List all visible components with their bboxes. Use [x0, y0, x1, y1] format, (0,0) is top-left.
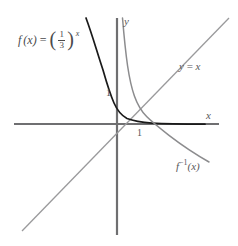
function-label-name: f [18, 34, 21, 46]
identity-line-label: y = x [179, 61, 201, 72]
x-axis-tick-label-1: 1 [137, 128, 142, 138]
exponent: x [76, 30, 80, 38]
fraction-denominator: 3 [58, 41, 65, 50]
x-axis-label: x [206, 110, 211, 121]
inverse-curve [123, 18, 210, 162]
base-fraction: 1 3 [58, 30, 65, 51]
y-axis-tick-label-1: 1 [106, 88, 111, 98]
inverse-label-arg: (x) [188, 161, 200, 172]
math-figure: f(x) = ( 1 3 ) x y x y = x f−1(x) 1 1 [0, 0, 238, 246]
identity-rhs: x [196, 60, 201, 72]
inverse-label-superscript: −1 [179, 159, 188, 167]
identity-equals: = [187, 60, 193, 72]
left-paren: ( [49, 29, 56, 49]
right-paren: ) [67, 29, 74, 49]
function-label-arg: (x) [23, 34, 36, 46]
inverse-function-label: f−1(x) [176, 161, 200, 172]
identity-lhs: y [179, 60, 184, 72]
fraction-numerator: 1 [58, 30, 65, 39]
y-axis-label: y [124, 16, 129, 27]
function-label: f(x) = ( 1 3 ) x [18, 30, 79, 51]
function-label-equals: = [40, 34, 47, 46]
